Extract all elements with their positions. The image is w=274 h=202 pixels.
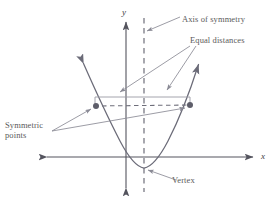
vertex-label: Vertex	[172, 176, 195, 186]
symmetric-point-right-dot	[187, 102, 193, 108]
x-axis-label: x	[261, 151, 265, 161]
axis-of-symmetry-label: Axis of symmetry	[182, 15, 245, 25]
symmetric-points-label: Symmetric points	[5, 121, 43, 140]
y-axis-label: y	[122, 7, 126, 17]
leader-axis-of-symmetry	[147, 17, 180, 31]
figure-canvas	[0, 0, 274, 202]
parabola-figure: Axis of symmetry Equal distances Symmetr…	[0, 0, 274, 202]
equal-distances-label: Equal distances	[190, 36, 245, 46]
symmetric-points-label-line2: points	[5, 131, 43, 141]
symmetric-point-left-dot	[93, 103, 99, 109]
leader-equal-distances-left	[120, 46, 190, 92]
symmetric-chord-dashed	[94, 105, 192, 106]
equal-distances-bracket	[95, 97, 190, 104]
